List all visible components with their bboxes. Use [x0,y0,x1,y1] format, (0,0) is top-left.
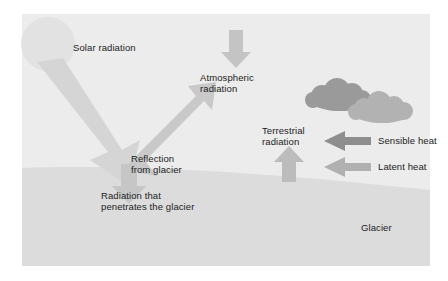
penetrating-radiation-label-line2: penetrates the glacier [101,201,194,213]
atmospheric-radiation-label-line2: radiation [200,83,237,95]
latent-heat-label: Latent heat [378,161,427,173]
sensible-heat-label: Sensible heat [378,135,437,147]
atmospheric-radiation-label-line1: Atmospheric [200,72,254,84]
terrestrial-radiation-label-line1: Terrestrial [262,125,305,137]
solar-radiation-label: Solar radiation [73,42,136,54]
reflection-label-line1: Reflection [131,153,174,165]
penetrating-radiation-label-line1: Radiation that [101,190,161,202]
glacier-label: Glacier [361,222,392,234]
glacier-energy-balance-diagram: Solar radiation Atmospheric radiation Re… [0,0,448,281]
terrestrial-radiation-label-line2: radiation [262,136,299,148]
reflection-label-line2: from glacier [131,164,182,176]
